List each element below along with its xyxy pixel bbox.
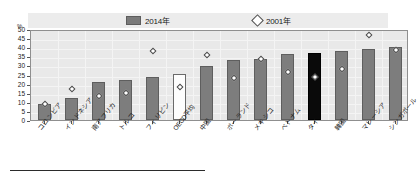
- y-axis-tick-label: 0: [21, 118, 25, 125]
- y-axis-tick-label: 45: [18, 36, 25, 43]
- footer-divider: [10, 170, 205, 171]
- bar-韓国: [335, 51, 347, 120]
- y-axis-tick-label: 5: [21, 109, 25, 116]
- y-axis-tick-label: 15: [18, 90, 25, 97]
- chart-legend: 2014年 2001年: [28, 13, 388, 28]
- gridline-horizontal: [31, 86, 407, 87]
- marker-マレーシア: [365, 31, 372, 38]
- gridline-horizontal: [31, 77, 407, 78]
- y-axis-tick-label: 25: [18, 72, 25, 79]
- gridline-horizontal: [31, 67, 407, 68]
- legend-label-2014: 2014年: [145, 15, 170, 26]
- bar-タイ: [308, 53, 320, 120]
- y-axis-tick-label: 35: [18, 54, 25, 61]
- gridline-vertical: [301, 31, 302, 120]
- bar-中国: [200, 66, 212, 120]
- gridline-horizontal: [31, 49, 407, 50]
- gridline-vertical: [274, 31, 275, 120]
- gridline-horizontal: [31, 40, 407, 41]
- y-axis-tick-label: 20: [18, 81, 25, 88]
- gridline-horizontal: [31, 58, 407, 59]
- y-axis-tick-label: 40: [18, 45, 25, 52]
- legend-label-2001: 2001年: [266, 15, 291, 26]
- y-axis: 50454035302520151050: [0, 30, 30, 121]
- y-axis-tick-label: 30: [18, 63, 25, 70]
- y-axis-tick-label: 50: [18, 27, 25, 34]
- gridline-vertical: [355, 31, 356, 120]
- legend-diamond-swatch-icon: [251, 14, 264, 27]
- legend-item-2014: 2014年: [126, 15, 170, 26]
- y-axis-tick-mark: [27, 121, 30, 122]
- gridline-vertical: [220, 31, 221, 120]
- y-axis-tick-label: 10: [18, 100, 25, 107]
- legend-item-2001: 2001年: [253, 15, 291, 26]
- marker-インドネシア: [68, 86, 75, 93]
- legend-bar-swatch-icon: [126, 16, 141, 25]
- gridline-horizontal: [31, 113, 407, 114]
- gridline-vertical: [139, 31, 140, 120]
- gridline-vertical: [328, 31, 329, 120]
